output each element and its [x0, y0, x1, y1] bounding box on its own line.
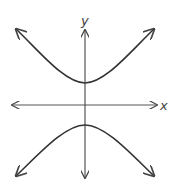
- hyperbola-graph: y x: [0, 0, 175, 186]
- y-axis-label: y: [80, 13, 89, 28]
- x-axis-label: x: [159, 98, 168, 113]
